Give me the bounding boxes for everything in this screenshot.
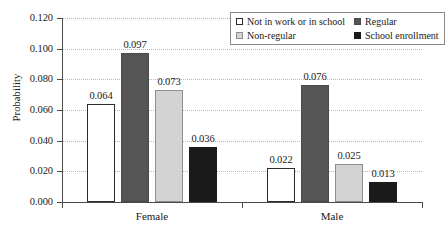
bar-value-label: 0.025: [324, 151, 374, 162]
y-axis-tick-label: 0.120: [0, 13, 53, 24]
bar: [267, 168, 295, 202]
bar: [121, 53, 149, 202]
legend-label: Non-regular: [247, 30, 296, 42]
x-axis-group-label: Male: [272, 210, 392, 222]
bar-value-label: 0.076: [290, 72, 340, 83]
bar-value-label: 0.022: [256, 155, 306, 166]
bar-value-label: 0.064: [76, 91, 126, 102]
legend-entry: Not in work or in school: [236, 16, 345, 28]
bar: [369, 182, 397, 202]
gridline: [62, 141, 422, 142]
legend-swatch-icon: [236, 18, 243, 25]
plot-area: 0.0640.0970.0730.0360.0220.0760.0250.013: [62, 18, 422, 202]
legend-swatch-icon: [354, 32, 361, 39]
y-axis-tick-label: 0.080: [0, 74, 53, 85]
y-axis-tick-label: 0.100: [0, 44, 53, 55]
y-axis-tick-label: 0.060: [0, 105, 53, 116]
y-axis-tick-label: 0.040: [0, 136, 53, 147]
x-axis-tick-mark: [242, 202, 243, 208]
x-axis-tick-mark: [62, 202, 63, 208]
y-axis-title: Probability: [11, 48, 22, 148]
legend-label: Regular: [365, 16, 397, 28]
bar-value-label: 0.013: [358, 169, 408, 180]
chart-legend: Not in work or in schoolRegularNon-regul…: [230, 12, 445, 45]
legend-label: School enrollment: [365, 30, 439, 42]
bar: [189, 147, 217, 202]
bar: [155, 90, 183, 202]
bar: [87, 104, 115, 202]
legend-entry: School enrollment: [354, 30, 439, 42]
gridline: [62, 79, 422, 80]
y-axis-line: [62, 18, 63, 202]
gridline: [62, 110, 422, 111]
bar-value-label: 0.036: [178, 134, 228, 145]
bar: [301, 85, 329, 202]
x-axis-tick-mark: [422, 202, 423, 208]
legend-swatch-icon: [236, 32, 243, 39]
x-axis-group-label: Female: [92, 210, 212, 222]
legend-entry: Non-regular: [236, 30, 345, 42]
bar-value-label: 0.097: [110, 40, 160, 51]
y-axis-tick-label: 0.000: [0, 197, 53, 208]
legend-swatch-icon: [354, 18, 361, 25]
bar-value-label: 0.073: [144, 77, 194, 88]
legend-label: Not in work or in school: [247, 16, 345, 28]
y-axis-tick-label: 0.020: [0, 166, 53, 177]
legend-entry: Regular: [354, 16, 439, 28]
